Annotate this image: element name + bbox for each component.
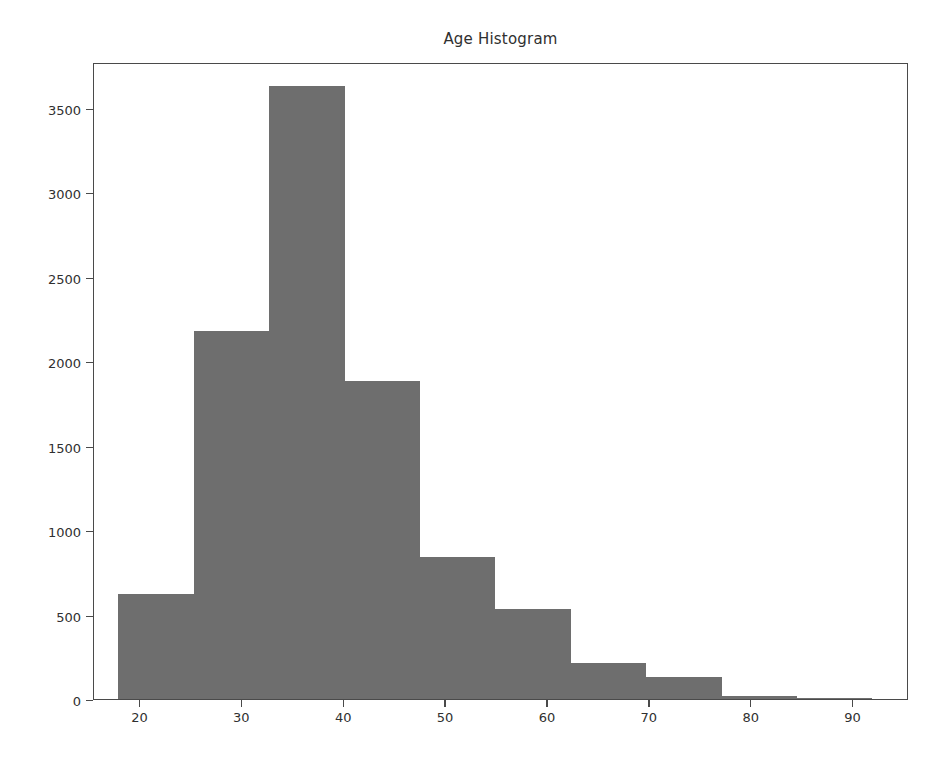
histogram-bar	[194, 331, 269, 699]
x-tick-mark	[648, 700, 649, 707]
y-tick-label: 3500	[48, 102, 81, 117]
x-axis-tick: 90	[852, 700, 853, 707]
x-axis-tick: 70	[648, 700, 649, 707]
chart-title: Age Histogram	[93, 30, 908, 48]
x-axis-tick: 80	[750, 700, 751, 707]
x-tick-mark	[852, 700, 853, 707]
y-tick-mark	[86, 109, 93, 110]
y-tick-label: 500	[56, 609, 81, 624]
y-tick-mark	[86, 700, 93, 701]
x-tick-label: 60	[539, 710, 556, 725]
y-tick-mark	[86, 447, 93, 448]
y-tick-mark	[86, 193, 93, 194]
y-tick-mark	[86, 362, 93, 363]
histogram-bar	[797, 698, 872, 699]
y-tick-mark	[86, 278, 93, 279]
x-axis-tick: 20	[139, 700, 140, 707]
y-tick-label: 2500	[48, 271, 81, 286]
y-tick-label: 0	[73, 694, 81, 709]
histogram-bar	[345, 381, 420, 699]
y-tick-mark	[86, 531, 93, 532]
histogram-bars	[94, 64, 907, 699]
plot-area	[93, 63, 908, 700]
histogram-bar	[495, 609, 570, 699]
histogram-bar	[722, 696, 797, 699]
x-axis-tick: 30	[241, 700, 242, 707]
x-axis-tick: 50	[444, 700, 445, 707]
y-axis-tick: 1500	[86, 447, 93, 448]
y-tick-label: 2000	[48, 356, 81, 371]
x-axis-tick: 40	[343, 700, 344, 707]
x-tick-mark	[241, 700, 242, 707]
x-tick-mark	[139, 700, 140, 707]
histogram-bar	[571, 663, 646, 699]
histogram-bar	[420, 557, 495, 699]
histogram-bar	[118, 594, 193, 699]
x-tick-label: 40	[335, 710, 352, 725]
y-tick-label: 3000	[48, 187, 81, 202]
y-axis-tick: 0	[86, 700, 93, 701]
y-axis-tick: 1000	[86, 531, 93, 532]
x-axis-tick: 60	[546, 700, 547, 707]
x-tick-label: 90	[844, 710, 861, 725]
y-axis-tick: 3000	[86, 193, 93, 194]
x-tick-mark	[444, 700, 445, 707]
figure-canvas: Age Histogram 05001000150020002500300035…	[0, 0, 938, 763]
x-tick-label: 30	[233, 710, 250, 725]
x-tick-mark	[343, 700, 344, 707]
y-axis-tick: 2000	[86, 362, 93, 363]
x-tick-label: 20	[131, 710, 148, 725]
y-axis-tick: 3500	[86, 109, 93, 110]
x-tick-mark	[750, 700, 751, 707]
x-tick-label: 50	[437, 710, 454, 725]
y-tick-mark	[86, 616, 93, 617]
x-tick-label: 70	[641, 710, 658, 725]
y-axis-tick: 500	[86, 616, 93, 617]
histogram-bar	[269, 86, 344, 699]
y-tick-label: 1500	[48, 440, 81, 455]
y-tick-label: 1000	[48, 525, 81, 540]
x-tick-mark	[546, 700, 547, 707]
histogram-bar	[646, 677, 721, 699]
y-axis-tick: 2500	[86, 278, 93, 279]
x-tick-label: 80	[742, 710, 759, 725]
